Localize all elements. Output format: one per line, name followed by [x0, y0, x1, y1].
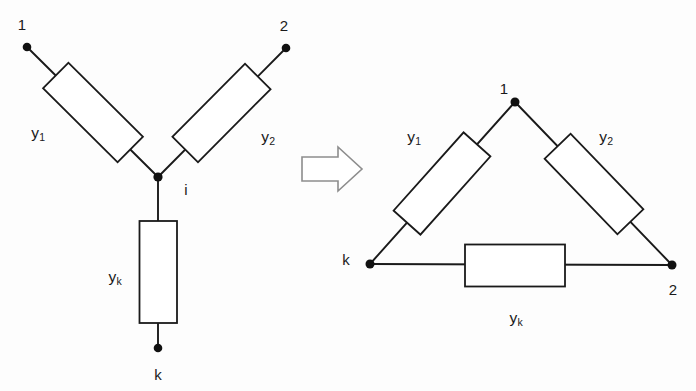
star-y1-base: y: [31, 124, 39, 141]
transformation-arrow-icon: [302, 147, 362, 191]
delta-node-1-dot: [511, 98, 520, 107]
star-resistor-y2: [172, 64, 270, 162]
delta-yk-sub: k: [518, 316, 523, 328]
delta-resistor-yk-label: yk: [510, 310, 523, 326]
delta-node-k-label: k: [342, 252, 350, 267]
delta-y2-base: y: [599, 128, 607, 145]
delta-y1-base: y: [407, 128, 415, 145]
delta-network-group: [366, 98, 677, 287]
star-resistor-yk-label: yk: [109, 269, 122, 285]
star-yk-base: y: [109, 268, 117, 285]
star-y2-sub: 2: [269, 135, 275, 147]
star-node-2-dot: [282, 44, 291, 53]
star-node-k-dot: [154, 344, 163, 353]
delta-node-2-dot: [668, 261, 677, 270]
circuit-diagram-svg: [0, 0, 696, 391]
delta-resistor-y1: [394, 132, 491, 234]
delta-yk-base: y: [510, 309, 518, 326]
delta-node-1-label: 1: [500, 81, 508, 96]
delta-resistor-y2-label: y2: [599, 129, 613, 145]
delta-y2-sub: 2: [607, 135, 613, 147]
star-resistor-y1: [43, 63, 143, 163]
star-node-2-label: 2: [280, 18, 288, 33]
star-y1-sub: 1: [39, 131, 45, 143]
star-network-group: [23, 43, 291, 353]
star-resistor-yk: [140, 221, 178, 323]
star-node-i-dot: [153, 172, 162, 181]
delta-resistor-y2: [545, 134, 644, 235]
delta-node-k-dot: [366, 260, 375, 269]
star-node-i-label: i: [184, 182, 187, 197]
delta-y1-sub: 1: [415, 135, 421, 147]
star-resistor-y1-label: y1: [31, 125, 45, 141]
star-yk-sub: k: [117, 275, 122, 287]
star-node-1-label: 1: [18, 17, 26, 32]
delta-node-2-label: 2: [669, 282, 677, 297]
star-y2-base: y: [261, 128, 269, 145]
star-resistor-y2-label: y2: [261, 129, 275, 145]
diagram-canvas: 1 2 i k y1 y2 yk 1 k 2 y1 y2 yk: [0, 0, 696, 391]
star-node-k-label: k: [154, 367, 162, 382]
delta-resistor-y1-label: y1: [407, 129, 421, 145]
star-node-1-dot: [23, 43, 32, 52]
delta-resistor-yk: [465, 245, 565, 287]
